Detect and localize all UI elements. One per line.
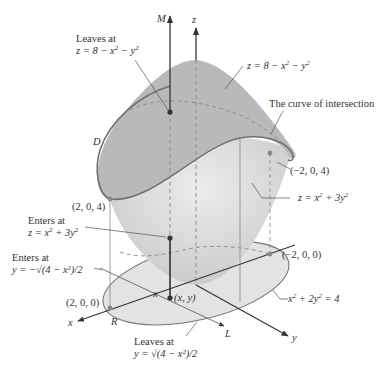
- R-label: R: [111, 316, 117, 328]
- upper-surface-label: z = 8 − x2 − y2: [247, 60, 310, 72]
- z-axis-label: z: [192, 14, 196, 26]
- point-2-0-0: [108, 306, 113, 311]
- D-label: D: [93, 136, 101, 148]
- point-m2-0-0-label: (−2, 0, 0): [282, 249, 321, 261]
- y-axis-label: y: [292, 332, 297, 344]
- xy-point: [167, 295, 172, 300]
- leaves-y-label: Leaves at y = √(4 − x²)/2: [134, 336, 197, 360]
- point-2-0-4-label: (2, 0, 4): [72, 201, 105, 213]
- xy-point-label: (x, y): [174, 292, 196, 304]
- point-m2-0-4-label: (−2, 0, 4): [290, 165, 329, 177]
- ellipse-label: x2 + 2y2 = 4: [288, 293, 340, 305]
- leaves-top-point: [167, 109, 172, 114]
- leaves-top-label: Leaves at z = 8 − x2 − y2: [76, 33, 139, 57]
- point-2-0-4: [108, 197, 113, 202]
- point-m2-0-0: [268, 252, 273, 257]
- region-diagram: [0, 0, 390, 376]
- L-label: L: [225, 328, 231, 340]
- curve-of-intersection-label: The curve of intersection: [269, 98, 374, 110]
- x-axis-label: x: [68, 317, 73, 329]
- x-mark-label: x: [153, 288, 158, 300]
- lower-surface-label: z = x2 + 3y2: [298, 192, 348, 204]
- point-2-0-0-label: (2, 0, 0): [66, 297, 99, 309]
- enters-bottom-point: [167, 235, 172, 240]
- enters-y-label: Enters at y = −√(4 − x²)/2: [12, 252, 82, 276]
- M-label: M: [157, 13, 166, 25]
- point-m2-0-4: [268, 151, 273, 156]
- enters-z-label: Enters at z = x2 + 3y2: [28, 215, 78, 239]
